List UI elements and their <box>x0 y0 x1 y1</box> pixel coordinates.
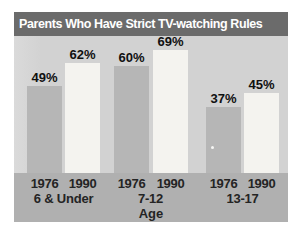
bar-rect <box>27 86 62 173</box>
category-label-6-and-under: 6 & Under <box>27 191 100 206</box>
year-tick-label: 1990 <box>244 176 279 191</box>
bar-rect <box>114 66 149 173</box>
year-tick-label: 1990 <box>153 176 188 191</box>
bar-1990-13-17: 45% <box>244 77 279 173</box>
bar-chart: Parents Who Have Strict TV-watching Rule… <box>14 12 288 222</box>
bar-1976-13-17: 37% <box>206 91 241 173</box>
value-label: 37% <box>210 91 236 106</box>
scan-artifact-dot <box>211 146 214 149</box>
bar-1990-7-12: 69% <box>153 34 188 173</box>
bar-1990-6-and-under: 62% <box>65 47 100 173</box>
value-label: 49% <box>31 70 57 85</box>
year-tick-label: 1976 <box>206 176 241 191</box>
category-label-13-17: 13-17 <box>206 191 279 206</box>
bar-rect <box>244 93 279 173</box>
year-tick-label: 1976 <box>27 176 62 191</box>
bar-rect <box>153 50 188 173</box>
plot-area: 49% 62% 60% 69% 37% 45% <box>14 36 288 173</box>
bar-rect <box>206 107 241 173</box>
chart-title: Parents Who Have Strict TV-watching Rule… <box>14 12 288 36</box>
value-label: 69% <box>157 34 183 49</box>
value-label: 62% <box>69 47 95 62</box>
bar-1976-6-and-under: 49% <box>27 70 62 173</box>
value-label: 45% <box>248 77 274 92</box>
x-axis-title: Age <box>14 206 288 221</box>
bar-rect <box>65 63 100 173</box>
x-axis-band: 1976 1990 1976 1990 1976 1990 6 & Under … <box>14 173 288 222</box>
year-tick-label: 1976 <box>114 176 149 191</box>
category-label-7-12: 7-12 <box>114 191 187 206</box>
bar-1976-7-12: 60% <box>114 50 149 173</box>
year-tick-label: 1990 <box>65 176 100 191</box>
value-label: 60% <box>118 50 144 65</box>
